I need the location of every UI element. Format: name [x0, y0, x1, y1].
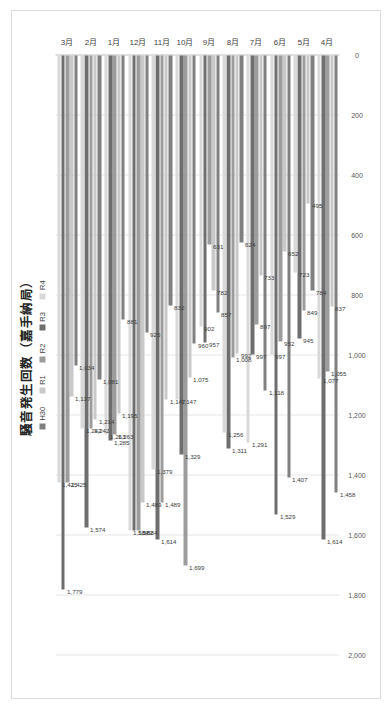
axis-tick-label: 600 [343, 232, 371, 239]
bar-r2-12月[interactable] [136, 55, 139, 530]
legend-item-r4[interactable]: R4 [37, 280, 46, 299]
bar-r4-6月[interactable] [270, 55, 273, 354]
bar-r4-5月[interactable] [293, 55, 296, 272]
bar-value-label: 1,407 [292, 476, 307, 483]
bar-r2-2月[interactable] [89, 55, 92, 428]
bar-r1-12月[interactable] [140, 55, 143, 502]
bar-group: 784495849945723 [292, 55, 316, 655]
bar-r2-4月[interactable] [325, 55, 328, 372]
legend-label: H30 [37, 406, 46, 420]
bar-r4-4月[interactable] [317, 55, 320, 378]
axis-tick-label: 1,800 [343, 592, 371, 599]
bar-r1-8月[interactable] [235, 55, 238, 353]
bar-r4-3月[interactable] [57, 55, 60, 483]
category-label-9月: 9月 [196, 36, 220, 47]
category-label-8月: 8月 [220, 36, 244, 47]
bar-r4-12月[interactable] [128, 55, 131, 530]
bar-group: 1,4076529521,529997 [268, 55, 292, 655]
plot-area: 02004006008001,0001,2001,4001,6001,8002,… [55, 55, 339, 655]
bar-group: 9601,0751,6991,3291,147 [173, 55, 197, 655]
bar-r3-2月[interactable] [84, 55, 87, 527]
bar-h30-4月[interactable] [334, 55, 337, 492]
bar-h30-11月[interactable] [168, 55, 171, 305]
bar-r4-11月[interactable] [151, 55, 154, 469]
bar-value-label: 1,584 [133, 529, 148, 536]
category-label-3月: 3月 [54, 36, 78, 47]
category-label-5月: 5月 [291, 36, 315, 47]
bar-h30-10月[interactable] [192, 55, 195, 343]
bar-h30-12月[interactable] [145, 55, 148, 333]
bar-r3-12月[interactable] [132, 55, 135, 530]
bar-value-label: 1,137 [75, 395, 90, 402]
axis-tick-label: 1,400 [343, 472, 371, 479]
bar-r1-4月[interactable] [330, 55, 333, 306]
bar-r3-5月[interactable] [297, 55, 300, 339]
bar-r2-6月[interactable] [278, 55, 281, 341]
bar-r1-5月[interactable] [306, 55, 309, 204]
bar-value-label: 1,214 [98, 418, 113, 425]
bar-h30-8月[interactable] [239, 55, 242, 242]
bar-value-label: 902 [204, 324, 214, 331]
bar-h30-9月[interactable] [216, 55, 219, 312]
bar-value-label: 1,489 [146, 500, 161, 507]
bar-r1-9月[interactable] [211, 55, 214, 290]
bar-h30-3月[interactable] [74, 55, 77, 365]
bar-r1-11月[interactable] [164, 55, 167, 399]
legend-swatch-icon [39, 356, 45, 362]
bar-h30-2月[interactable] [97, 55, 100, 379]
bar-r3-10月[interactable] [179, 55, 182, 454]
bar-group: 9251,4891,5841,5821,584 [126, 55, 150, 655]
category-label-12月: 12月 [125, 36, 149, 47]
bar-value-label: 832 [174, 303, 184, 310]
bar-value-label: 1,077 [322, 377, 337, 384]
bar-h30-5月[interactable] [310, 55, 313, 290]
bar-r4-2月[interactable] [80, 55, 83, 428]
bar-value-label: 624 [245, 241, 255, 248]
bar-r3-4月[interactable] [321, 55, 324, 539]
bar-group: 1,0811,2141,2421,5741,242 [79, 55, 103, 655]
bar-group: 1,4588371,0551,6141,077 [315, 55, 339, 655]
bar-r1-10月[interactable] [188, 55, 191, 378]
category-label-11月: 11月 [149, 36, 173, 47]
bar-value-label: 723 [298, 270, 308, 277]
bar-r1-6月[interactable] [282, 55, 285, 251]
legend-item-r3[interactable]: R3 [37, 312, 46, 331]
bar-r2-7月[interactable] [254, 55, 257, 324]
bar-value-label: 495 [311, 202, 321, 209]
category-label-6月: 6月 [267, 36, 291, 47]
bar-r2-3月[interactable] [65, 55, 68, 483]
chart-frame: 騒音発生回数（嘉手納局） H30R1R2R3R4 02004006008001,… [11, 10, 381, 699]
bar-r3-11月[interactable] [155, 55, 158, 539]
chart-legend: H30R1R2R3R4 [37, 10, 46, 699]
axis-tick-label: 1,200 [343, 412, 371, 419]
bar-h30-1月[interactable] [121, 55, 124, 319]
bar-r3-7月[interactable] [250, 55, 253, 354]
bar-r2-11月[interactable] [160, 55, 163, 502]
legend-item-h30[interactable]: H30 [37, 406, 46, 429]
legend-item-r1[interactable]: R1 [37, 375, 46, 394]
bar-value-label: 1,425 [62, 481, 77, 488]
axis-tick-label: 1,000 [343, 352, 371, 359]
bar-r2-9月[interactable] [207, 55, 210, 244]
bar-r3-3月[interactable] [61, 55, 64, 589]
bar-r3-9月[interactable] [203, 55, 206, 342]
bar-r3-6月[interactable] [274, 55, 277, 514]
bar-h30-6月[interactable] [287, 55, 290, 477]
bar-value-label: 631 [212, 243, 222, 250]
bar-r3-8月[interactable] [226, 55, 229, 448]
bar-r4-9月[interactable] [199, 55, 202, 326]
bar-value-label: 1,147 [169, 398, 184, 405]
bar-value-label: 1,529 [279, 512, 294, 519]
bar-r1-3月[interactable] [69, 55, 72, 396]
bar-r4-7月[interactable] [246, 55, 249, 442]
bar-r4-10月[interactable] [175, 55, 178, 399]
bar-r1-7月[interactable] [259, 55, 262, 275]
bar-h30-7月[interactable] [263, 55, 266, 390]
bar-value-label: 1,614 [326, 538, 341, 545]
bar-r1-1月[interactable] [117, 55, 120, 414]
legend-item-r2[interactable]: R2 [37, 343, 46, 362]
bar-value-label: 957 [208, 341, 218, 348]
chart-title: 騒音発生回数（嘉手納局） [15, 10, 34, 699]
bar-value-label: 1,008 [236, 356, 251, 363]
bar-group: 6249921,0081,3111,256 [221, 55, 245, 655]
